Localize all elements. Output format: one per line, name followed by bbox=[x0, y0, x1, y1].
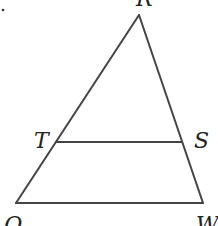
vertex-labels: R Q W T S bbox=[4, 0, 218, 226]
segment-rq bbox=[16, 15, 139, 203]
label-r: R bbox=[135, 0, 153, 11]
label-w: W bbox=[196, 212, 218, 226]
corner-dot bbox=[2, 9, 5, 12]
label-t: T bbox=[34, 128, 51, 153]
segment-rw bbox=[139, 15, 203, 203]
segments bbox=[16, 15, 203, 203]
label-s: S bbox=[194, 128, 209, 153]
triangle-diagram: R Q W T S bbox=[0, 0, 218, 226]
label-q: Q bbox=[4, 212, 22, 226]
